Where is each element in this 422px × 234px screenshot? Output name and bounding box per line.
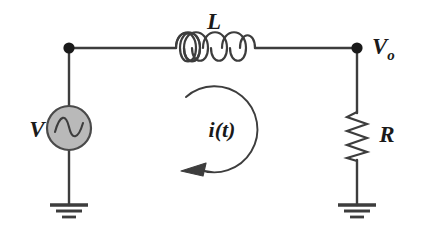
ground-right-symbol (338, 205, 376, 217)
current-label: i(t) (209, 117, 236, 142)
inductor-tail-right (240, 35, 255, 48)
source-label: V (29, 117, 46, 142)
resistor-symbol (347, 112, 367, 161)
ac-voltage-source-symbol (47, 106, 91, 150)
inductor-symbol (176, 32, 255, 61)
output-voltage-subscript: o (387, 47, 395, 63)
ground-left-symbol (50, 205, 88, 217)
circuit-canvas: L V R Vo i(t) (0, 0, 422, 234)
node-output-dot (351, 42, 362, 53)
current-arrowhead-icon (181, 163, 206, 176)
resistor-label: R (378, 122, 394, 147)
inductor-label: L (206, 9, 221, 34)
node-input-dot (63, 42, 74, 53)
output-voltage-label: Vo (372, 34, 395, 63)
circuit-diagram: L V R Vo i(t) (0, 0, 422, 234)
